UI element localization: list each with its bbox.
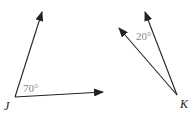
ray-k-upper [145, 12, 177, 95]
angle-k: 20° K [119, 12, 189, 111]
vertex-k-label: K [179, 97, 189, 111]
angle-j-measure: 70° [23, 82, 38, 94]
angles-diagram: 70° J 20° K [0, 0, 195, 115]
vertex-j-label: J [4, 99, 10, 113]
angle-j: 70° J [4, 12, 103, 113]
angle-k-measure: 20° [136, 30, 151, 42]
